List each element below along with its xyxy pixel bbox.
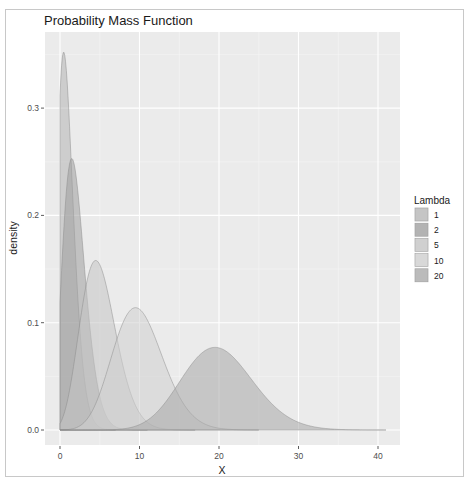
y-tick-label: 0.1 [27, 318, 39, 328]
legend-label-10: 10 [434, 256, 444, 266]
legend-swatch-2 [415, 223, 428, 236]
pmf-chart: Probability Mass Function 0.00.10.20.3 0… [0, 0, 470, 485]
x-tick-label: 30 [294, 451, 304, 461]
y-tick-label: 0.2 [27, 210, 39, 220]
y-tick-label: 0.0 [27, 425, 39, 435]
x-axis: 010203040 [58, 446, 383, 461]
x-axis-title: X [218, 464, 225, 476]
legend-label-20: 20 [434, 271, 444, 281]
legend-swatch-20 [415, 269, 428, 282]
legend-swatch-5 [415, 238, 428, 251]
x-tick-label: 10 [135, 451, 145, 461]
legend-label-2: 2 [434, 225, 439, 235]
x-tick-label: 40 [373, 451, 383, 461]
legend-title: Lambda [414, 195, 451, 206]
x-tick-label: 20 [214, 451, 224, 461]
legend-label-5: 5 [434, 240, 439, 250]
legend: Lambda 1251020 [414, 195, 451, 283]
chart-title: Probability Mass Function [44, 13, 193, 28]
legend-label-1: 1 [434, 210, 439, 220]
legend-swatch-1 [415, 208, 428, 221]
y-axis-title: density [7, 221, 19, 255]
x-tick-label: 0 [58, 451, 63, 461]
y-tick-label: 0.3 [27, 103, 39, 113]
y-axis: 0.00.10.20.3 [27, 103, 44, 435]
legend-swatch-10 [415, 254, 428, 267]
